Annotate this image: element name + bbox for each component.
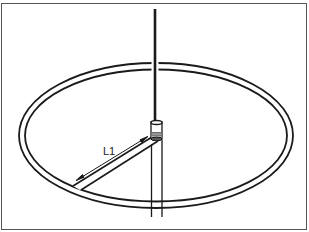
antenna-diagram: L1 [0,0,309,232]
label-l1: L1 [103,145,115,157]
dimension-arrow-l1 [76,136,148,180]
base-connector [151,121,162,141]
mast [152,140,163,217]
radial-strap [73,137,158,190]
